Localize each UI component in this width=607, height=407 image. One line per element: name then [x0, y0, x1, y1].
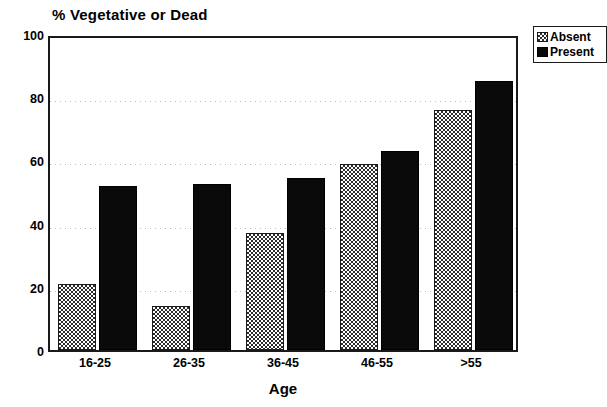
y-tick-label: 100 — [4, 29, 44, 43]
legend-label: Present — [550, 46, 594, 58]
crosshatch-swatch — [537, 32, 548, 42]
bars-layer — [50, 38, 516, 350]
bar-group — [50, 38, 520, 350]
bar-chart: % Vegetative or Dead 020406080100 16-252… — [0, 0, 607, 407]
x-tick-label: 16-25 — [79, 356, 111, 370]
plot-area — [48, 36, 518, 352]
solid-black-swatch — [537, 47, 548, 57]
x-tick-label: >55 — [460, 356, 481, 370]
y-tick-label: 20 — [4, 282, 44, 296]
y-tick-label: 0 — [4, 345, 44, 359]
y-tick-label: 40 — [4, 219, 44, 233]
y-tick-label: 80 — [4, 92, 44, 106]
y-axis: 020406080100 — [0, 36, 44, 352]
legend-label: Absent — [550, 31, 591, 43]
y-tick-label: 60 — [4, 155, 44, 169]
legend-item-absent[interactable]: Absent — [537, 30, 603, 44]
bar-present->55 — [475, 81, 513, 350]
x-tick-label: 46-55 — [361, 356, 393, 370]
x-tick-label: 26-35 — [173, 356, 205, 370]
x-tick-label: 36-45 — [267, 356, 299, 370]
x-axis-title: Age — [48, 380, 518, 397]
legend-item-present[interactable]: Present — [537, 45, 603, 59]
chart-legend: AbsentPresent — [533, 26, 607, 63]
bar-absent->55 — [434, 110, 472, 350]
chart-title: % Vegetative or Dead — [52, 6, 208, 23]
x-axis: 16-2526-3536-4546-55>55 — [48, 356, 518, 376]
